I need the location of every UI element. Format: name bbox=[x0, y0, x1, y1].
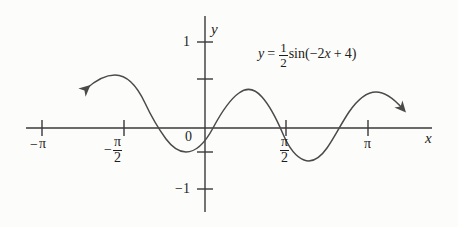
fraction-numerator: π bbox=[280, 135, 289, 151]
equation-inner-coefficient: 2 bbox=[318, 46, 325, 61]
equation-annotation: y= 1 2 sin(−2x+4) bbox=[258, 41, 356, 69]
x-axis-label: x bbox=[425, 131, 432, 146]
graph-figure: y x 0 1 −1 −π − π 2 π 2 π y= 1 2 sin(−2x… bbox=[0, 0, 458, 227]
equation-inner-plus: + bbox=[334, 46, 342, 61]
fraction-numerator: π bbox=[113, 135, 122, 151]
minus-sign: − bbox=[30, 138, 38, 152]
x-tick-label-pi-over-2: π 2 bbox=[280, 135, 289, 165]
equation-inner-variable: x bbox=[325, 46, 331, 61]
equation-equals: = bbox=[267, 46, 275, 61]
equation-lhs: y bbox=[258, 46, 264, 61]
equation-inner-constant: 4 bbox=[345, 46, 352, 61]
fraction-pi-over-2: π 2 bbox=[280, 135, 289, 165]
y-axis-label: y bbox=[211, 22, 218, 37]
sine-curve bbox=[86, 75, 402, 161]
x-tick-label-pi: π bbox=[364, 137, 371, 151]
origin-label: 0 bbox=[185, 130, 192, 144]
x-tick-label-neg-pi: −π bbox=[30, 137, 46, 152]
fraction-denominator: 2 bbox=[280, 151, 289, 166]
pi-symbol: π bbox=[39, 136, 46, 151]
fraction-denominator: 2 bbox=[113, 151, 122, 166]
minus-sign: − bbox=[104, 143, 112, 157]
fraction-pi-over-2: π 2 bbox=[113, 135, 122, 165]
equation-sin-open: sin( bbox=[289, 46, 310, 61]
equation-sin-close: ) bbox=[352, 46, 357, 61]
fraction-numerator: 1 bbox=[279, 41, 288, 56]
equation-coefficient-fraction: 1 2 bbox=[279, 41, 288, 69]
equation-inner-sign: − bbox=[310, 46, 318, 61]
y-tick-label-1: 1 bbox=[183, 35, 190, 49]
fraction-denominator: 2 bbox=[279, 56, 288, 70]
plot-canvas bbox=[0, 0, 458, 227]
y-tick-label-neg-1: −1 bbox=[175, 182, 190, 196]
x-tick-label-neg-pi-over-2: − π 2 bbox=[104, 135, 122, 165]
